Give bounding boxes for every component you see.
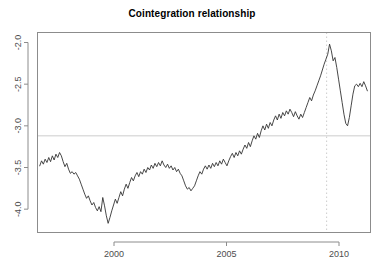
y-tick-label: -3.0 — [13, 118, 23, 134]
series-0 — [40, 44, 368, 223]
x-tick-label: 2010 — [329, 249, 349, 259]
x-axis: 200020052010 — [104, 242, 349, 259]
y-tick-label: -2.5 — [13, 76, 23, 92]
x-tick-label: 2000 — [104, 249, 124, 259]
y-tick-label: -3.5 — [13, 160, 23, 176]
y-tick-label: -2.0 — [13, 35, 23, 51]
plot-frame-box — [38, 33, 371, 233]
data-series-line — [40, 44, 368, 223]
chart-figure: Cointegration relationship 200020052010 … — [0, 0, 384, 269]
y-tick-label: -4.0 — [13, 201, 23, 217]
y-axis: -2.0-2.5-3.0-3.5-4.0 — [13, 35, 28, 217]
plot-area: 200020052010 -2.0-2.5-3.0-3.5-4.0 — [0, 0, 384, 269]
x-tick-label: 2005 — [216, 249, 236, 259]
